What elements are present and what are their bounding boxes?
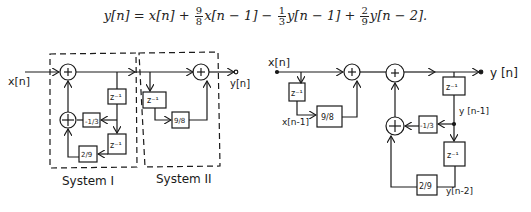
left-output-label: y[n] bbox=[230, 78, 250, 89]
system1-label: System I bbox=[62, 174, 114, 188]
gain-label: -1/3 bbox=[420, 122, 434, 130]
system1-boundary bbox=[50, 53, 137, 168]
output-terminal bbox=[234, 70, 238, 74]
left-diagram bbox=[25, 52, 238, 168]
right-output-label: y [n] bbox=[490, 66, 518, 80]
delay-label: z⁻¹ bbox=[110, 93, 122, 102]
delay-label: z⁻¹ bbox=[291, 89, 303, 98]
delay-label: z⁻¹ bbox=[110, 141, 122, 150]
y-n2-label: y[n-2] bbox=[446, 186, 473, 196]
gain-label: 2/9 bbox=[419, 182, 432, 191]
gain-label: 9/8 bbox=[321, 113, 334, 122]
system2-boundary bbox=[139, 52, 220, 167]
delay-label: z⁻¹ bbox=[446, 83, 458, 92]
gain-label: 9/8 bbox=[174, 117, 185, 125]
right-delayed-input-label: x[n-1] bbox=[282, 117, 309, 127]
delay-label: z⁻¹ bbox=[147, 96, 159, 105]
block-diagrams: x[n] y[n] System I System II z⁻¹ z⁻¹ z⁻¹… bbox=[0, 0, 531, 212]
gain-label: -1/3 bbox=[85, 118, 99, 126]
right-input-label: x[n] bbox=[268, 56, 290, 69]
delay-label: z⁻¹ bbox=[447, 151, 459, 160]
system2-label: System II bbox=[156, 172, 212, 186]
left-input-label: x[n] bbox=[8, 75, 30, 88]
y-n1-label: y [n-1] bbox=[459, 106, 489, 116]
output-terminal bbox=[479, 70, 483, 74]
gain-label: 2/9 bbox=[81, 151, 92, 159]
